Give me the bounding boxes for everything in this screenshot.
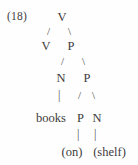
tree-terminal-on: (on) [57, 146, 87, 159]
branch-slash-2: / [61, 56, 70, 67]
branch-bar-n-leaf: | [94, 128, 102, 140]
branch-slash-3: / [78, 90, 87, 101]
tree-node-n-leaf: N [90, 112, 104, 125]
branch-slash-1: / [47, 26, 56, 37]
branch-bar-n-books: | [58, 89, 66, 101]
branch-backslash-2: \ [82, 56, 91, 67]
example-number: (18) [7, 11, 27, 23]
tree-node-n-books: N [54, 72, 68, 85]
tree-node-right-p: P [64, 40, 78, 53]
branch-backslash-1: \ [68, 26, 77, 37]
tree-node-root-v: V [55, 11, 69, 24]
tree-terminal-shelf: (shelf) [87, 146, 132, 159]
branch-backslash-3: \ [92, 90, 101, 101]
syntax-tree-figure: (18) V / \ V P / \ N P | / \ books P N |… [0, 0, 138, 165]
tree-node-p-inner: P [80, 72, 94, 85]
branch-bar-p-leaf: | [77, 128, 85, 140]
tree-node-p-leaf: P [74, 112, 87, 125]
tree-terminal-books: books [31, 112, 71, 125]
tree-node-left-v: V [39, 40, 53, 53]
